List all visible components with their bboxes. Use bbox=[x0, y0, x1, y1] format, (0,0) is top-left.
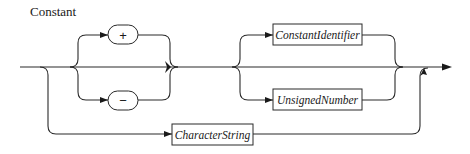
constant-identifier-label: ConstantIdentifier bbox=[275, 29, 360, 42]
nonterminal-constant-identifier: ConstantIdentifier bbox=[273, 24, 362, 45]
plus-symbol: + bbox=[119, 28, 127, 43]
plus-branch bbox=[70, 35, 108, 67]
minus-branch bbox=[70, 67, 108, 100]
exit-arrow-icon bbox=[442, 64, 452, 71]
arrow-icon bbox=[164, 131, 172, 137]
number-branch bbox=[232, 67, 273, 100]
character-string-label: CharacterString bbox=[175, 129, 251, 142]
identifier-branch bbox=[232, 35, 273, 67]
arrow-icon bbox=[100, 97, 108, 103]
nonterminal-unsigned-number: UnsignedNumber bbox=[273, 89, 362, 110]
terminal-minus: − bbox=[108, 91, 138, 110]
terminal-plus: + bbox=[108, 25, 138, 44]
plus-exit bbox=[138, 35, 178, 67]
arrow-icon bbox=[265, 97, 273, 103]
number-merge bbox=[362, 67, 403, 100]
arrow-icon bbox=[100, 32, 108, 38]
nonterminal-character-string: CharacterString bbox=[172, 124, 253, 145]
minus-symbol: − bbox=[119, 93, 127, 108]
identifier-merge bbox=[362, 35, 403, 67]
minus-exit bbox=[138, 67, 178, 100]
arrow-icon bbox=[265, 32, 273, 38]
unsigned-number-label: UnsignedNumber bbox=[277, 94, 359, 107]
syntax-diagram: + − ConstantIdentifier UnsignedNumber Ch… bbox=[0, 0, 470, 154]
